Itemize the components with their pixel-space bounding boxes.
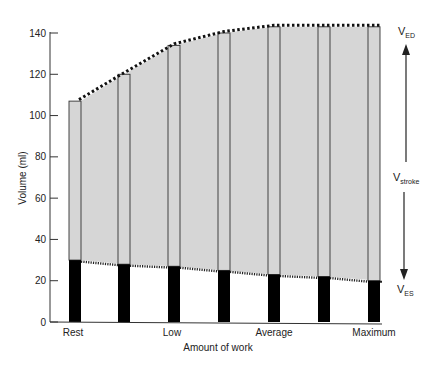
esv-bar [118, 264, 130, 322]
edv-bar [69, 101, 81, 260]
y-tick-label: 20 [35, 275, 47, 286]
x-tick-label: Maximum [352, 327, 395, 338]
arrow-up-icon [402, 44, 410, 162]
ves-annotation: VES [397, 283, 414, 297]
esv-bar [218, 270, 230, 322]
bar [268, 27, 280, 322]
edv-bar [218, 33, 230, 270]
svg-text:VES: VES [397, 283, 414, 297]
ved-annotation: VED [398, 25, 415, 39]
edv-bar [368, 27, 380, 281]
y-tick-label: 120 [29, 69, 46, 80]
edv-bar [318, 27, 330, 277]
esv-bar [69, 260, 81, 322]
esv-dotted-line [280, 276, 318, 278]
svg-text:VED: VED [398, 25, 415, 39]
ved-subscript: ED [405, 32, 415, 39]
y-axis-label: Volume (ml) [17, 151, 28, 204]
stroke-volume-chart: 020406080100120140RestLowAverageMaximum … [0, 0, 436, 367]
bar [368, 27, 380, 322]
x-tick-label: Rest [63, 327, 84, 338]
ves-subscript: ES [404, 290, 414, 297]
vstroke-subscript: stroke [400, 178, 419, 185]
edv-bar [268, 27, 280, 275]
y-tick-label: 60 [35, 193, 47, 204]
x-tick-label: Low [163, 327, 182, 338]
esv-bar [268, 275, 280, 322]
y-tick-label: 80 [35, 151, 47, 162]
esv-dotted-line [130, 266, 168, 268]
y-tick-label: 40 [35, 234, 47, 245]
bar [218, 33, 230, 322]
edv-bar [118, 74, 130, 264]
x-axis-label: Amount of work [183, 342, 253, 353]
bar [168, 45, 180, 322]
bar [118, 74, 130, 322]
svg-text:Vstroke: Vstroke [393, 171, 420, 185]
y-tick-label: 140 [29, 28, 46, 39]
esv-bar [368, 281, 380, 322]
bar [318, 27, 330, 322]
y-tick-label: 0 [40, 317, 46, 328]
arrow-down-icon [400, 192, 408, 280]
x-tick-label: Average [255, 327, 293, 338]
vstroke-annotation: Vstroke [393, 171, 420, 185]
x-axis [50, 322, 382, 324]
esv-bar [168, 266, 180, 322]
y-tick-label: 100 [29, 110, 46, 121]
esv-bar [318, 277, 330, 322]
edv-bar [168, 45, 180, 266]
bar [69, 101, 81, 322]
